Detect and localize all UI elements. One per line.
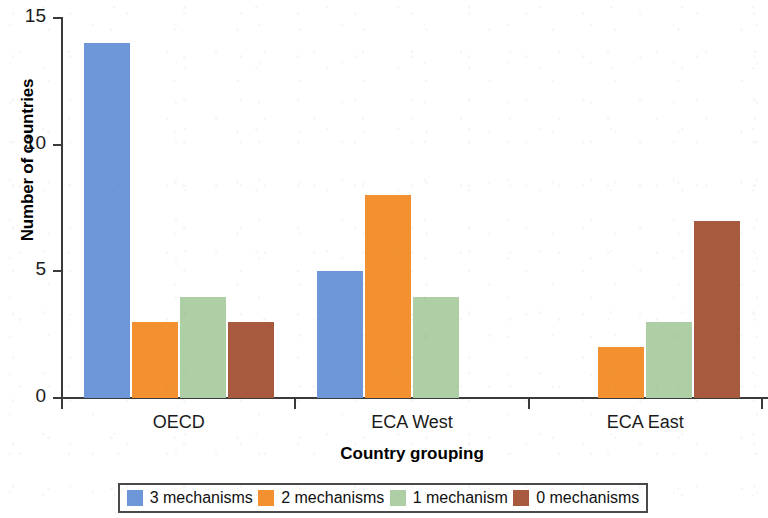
x-axis-tick-label: ECA East (560, 412, 730, 433)
bar (84, 43, 130, 398)
bar (180, 297, 226, 398)
y-axis-tick-mark (53, 144, 62, 146)
legend-swatch-icon (258, 490, 274, 506)
bar (132, 322, 178, 398)
bar (598, 347, 644, 398)
x-axis-tick-mark (528, 399, 530, 409)
legend-label: 2 mechanisms (281, 489, 384, 507)
bar (413, 297, 459, 398)
bar (228, 322, 274, 398)
legend-item[interactable]: 0 mechanisms (513, 489, 639, 507)
legend-swatch-icon (513, 490, 529, 506)
y-axis-title: Number of countries (18, 40, 38, 280)
bar (646, 322, 692, 398)
legend-swatch-icon (390, 490, 406, 506)
plot-area (62, 18, 762, 398)
x-axis-tick-mark (294, 399, 296, 409)
legend-item[interactable]: 1 mechanism (390, 489, 508, 507)
legend-label: 0 mechanisms (536, 489, 639, 507)
x-axis-tick-label: OECD (94, 412, 264, 433)
legend-swatch-icon (127, 490, 143, 506)
y-axis-tick-mark (53, 17, 62, 19)
y-axis-tick-label: 0 (6, 385, 46, 407)
legend-item[interactable]: 2 mechanisms (258, 489, 384, 507)
x-axis-tick-mark (761, 399, 763, 409)
bar (694, 221, 740, 398)
legend-item[interactable]: 3 mechanisms (127, 489, 253, 507)
x-axis-title: Country grouping (62, 444, 762, 464)
bar (365, 195, 411, 398)
bar (317, 271, 363, 398)
y-axis-tick-mark (53, 270, 62, 272)
legend-label: 1 mechanism (413, 489, 508, 507)
chart-legend: 3 mechanisms2 mechanisms1 mechanism0 mec… (118, 483, 648, 513)
x-axis-tick-mark (61, 399, 63, 409)
legend-label: 3 mechanisms (150, 489, 253, 507)
x-axis-tick-label: ECA West (327, 412, 497, 433)
bar-chart: 051015 OECDECA WestECA East Number of co… (0, 0, 768, 518)
y-axis-tick-label: 15 (6, 5, 46, 27)
